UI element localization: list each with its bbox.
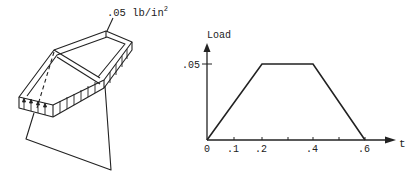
x-tick-label: 0 [204, 144, 210, 155]
slab-rib-edge [54, 50, 100, 78]
x-tick-label: .4 [306, 144, 318, 155]
x-axis-arrow-icon [385, 137, 396, 144]
x-tick-label: .2 [255, 144, 267, 155]
x-tick-label: .6 [358, 144, 370, 155]
hidden-edge-dashed [37, 52, 54, 108]
slab-hatching [60, 49, 127, 113]
load-time-chart: Load t .05 0 .1 .2 .4 .6 [182, 30, 406, 155]
x-tick-label: .1 [227, 144, 239, 155]
load-curve [207, 64, 365, 140]
label-leader-line [107, 18, 113, 31]
plate-structure-diagram [19, 18, 132, 170]
slab-rib-edge-inner [57, 57, 100, 84]
y-tick-label: .05 [182, 60, 200, 71]
slab-bottom-edge [19, 42, 132, 117]
support-frame [26, 86, 111, 170]
y-axis-arrow-icon [204, 43, 211, 52]
figure-canvas: .05 lb/in2 Load t .05 0 .1 .2 .4 .6 [0, 0, 410, 183]
pressure-label: .05 lb/in2 [107, 5, 168, 19]
x-axis-label: t [399, 138, 406, 150]
y-axis-label: Load [207, 30, 231, 41]
